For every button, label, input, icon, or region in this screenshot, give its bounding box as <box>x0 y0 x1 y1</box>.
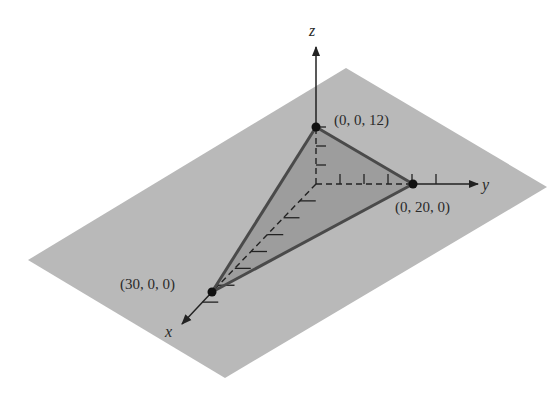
x-intercept-point <box>208 288 217 297</box>
y-intercept-point <box>409 180 418 189</box>
y-intercept-label: (0, 20, 0) <box>395 199 450 216</box>
diagram-canvas: z y x (0, 0, 12) (0, 20, 0) (30, 0, 0) <box>0 0 557 395</box>
z-intercept-label: (0, 0, 12) <box>334 112 389 129</box>
z-axis-label: z <box>308 22 316 39</box>
x-intercept-label: (30, 0, 0) <box>120 276 175 293</box>
x-axis-label: x <box>164 323 172 340</box>
y-axis-label: y <box>480 176 490 194</box>
z-intercept-point <box>312 123 321 132</box>
